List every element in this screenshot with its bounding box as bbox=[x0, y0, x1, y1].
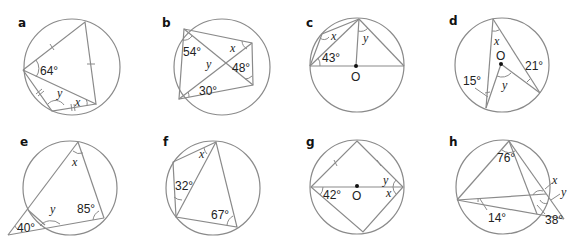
unknown-label: x bbox=[330, 29, 337, 43]
unknown-label: x bbox=[74, 95, 81, 109]
panel-label-b: b bbox=[162, 16, 171, 30]
angle-label: 15° bbox=[463, 74, 481, 88]
angle-label: 76° bbox=[497, 151, 515, 165]
circle-e bbox=[23, 141, 117, 235]
radius bbox=[356, 19, 359, 66]
center-point bbox=[355, 184, 359, 188]
panel-label-f: f bbox=[163, 135, 169, 149]
diagram-f: f x 32° 67° bbox=[163, 135, 260, 235]
angle-label: 67° bbox=[211, 208, 229, 222]
panel-label-h: h bbox=[449, 135, 458, 149]
angle-label: 14° bbox=[488, 211, 506, 225]
panel-label-d: d bbox=[449, 14, 458, 28]
unknown-label: x bbox=[493, 34, 500, 48]
unknown-label: x bbox=[198, 147, 205, 161]
diagram-h: h 76° x y 14° 38° bbox=[449, 135, 567, 234]
angle-label: 54° bbox=[183, 45, 201, 59]
circle-theorem-diagrams: a 64° y x b 54° x y 48° 30° c bbox=[0, 0, 578, 241]
center-point bbox=[354, 64, 358, 68]
equal-tick bbox=[377, 160, 381, 166]
panel-label-g: g bbox=[306, 135, 315, 149]
unknown-label: y bbox=[382, 173, 389, 187]
circle-b bbox=[174, 19, 270, 115]
diagram-b: b 54° x y 48° 30° bbox=[162, 16, 270, 115]
diagram-c: c x y 43° O bbox=[306, 16, 404, 112]
angle-label: 43° bbox=[322, 51, 340, 65]
angle-arc bbox=[36, 60, 39, 77]
center-label: O bbox=[352, 189, 361, 203]
angle-label: 30° bbox=[199, 84, 217, 98]
unknown-label: x bbox=[71, 155, 78, 169]
panel-label-a: a bbox=[18, 16, 26, 30]
diagram-a: a 64° y x bbox=[18, 16, 120, 115]
angle-label: 21° bbox=[525, 59, 543, 73]
unknown-label: y bbox=[205, 57, 212, 71]
angle-label: 85° bbox=[77, 202, 95, 216]
angle-label: 64° bbox=[40, 64, 58, 78]
unknown-label: y bbox=[560, 185, 567, 199]
angle-label: 32° bbox=[175, 179, 193, 193]
angle-arc bbox=[48, 100, 64, 105]
unknown-label: y bbox=[362, 31, 369, 45]
angle-label: 42° bbox=[323, 188, 341, 202]
angle-label: 40° bbox=[17, 221, 35, 235]
center-label: O bbox=[351, 70, 360, 84]
double-tick bbox=[71, 104, 72, 111]
diagram-d: d x O 21° 15° y bbox=[449, 14, 549, 112]
unknown-label: y bbox=[56, 86, 63, 100]
unknown-label: y bbox=[49, 202, 56, 216]
angle-label: 48° bbox=[232, 61, 250, 75]
diagram-e: e x y 85° 40° bbox=[8, 135, 117, 235]
center-label: O bbox=[496, 49, 505, 63]
diagram-g: g 42° O y x bbox=[306, 135, 404, 234]
panel-label-c: c bbox=[306, 16, 313, 30]
unknown-label: x bbox=[551, 173, 558, 187]
angle-label: 38° bbox=[545, 213, 563, 227]
panel-label-e: e bbox=[20, 135, 28, 149]
unknown-label: x bbox=[385, 186, 392, 200]
unknown-label: y bbox=[501, 78, 508, 92]
unknown-label: x bbox=[229, 41, 236, 55]
